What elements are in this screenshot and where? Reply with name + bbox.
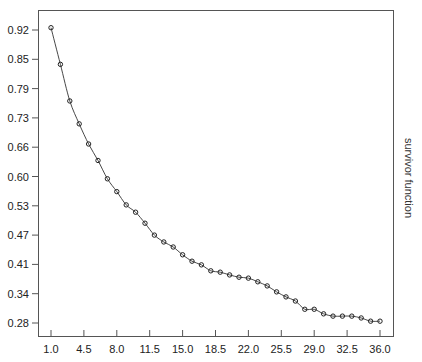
y-tick-label: 0.66	[8, 141, 29, 153]
x-tick-label: 8.0	[109, 343, 124, 355]
x-tick-label: 15.0	[172, 343, 193, 355]
x-axis: 1.04.58.011.515.018.522.025.529.032.536.…	[43, 330, 390, 355]
x-tick-label: 11.5	[139, 343, 160, 355]
y-tick-label: 0.60	[8, 171, 29, 183]
x-tick-label: 32.5	[336, 343, 357, 355]
y-tick-label: 0.28	[8, 317, 29, 329]
data-points	[49, 26, 382, 324]
y-axis: 0.920.850.790.730.660.600.530.470.410.34…	[8, 24, 38, 329]
x-tick-label: 36.0	[369, 343, 390, 355]
y-tick-label: 0.73	[8, 112, 29, 124]
x-tick-label: 25.5	[271, 343, 292, 355]
x-tick-label: 1.0	[43, 343, 58, 355]
y-tick-label: 0.34	[8, 288, 29, 300]
plot-frame	[39, 11, 394, 337]
x-tick-label: 18.5	[205, 343, 226, 355]
y-tick-label: 0.41	[8, 258, 29, 270]
y-tick-label: 0.79	[8, 83, 29, 95]
y-tick-label: 0.53	[8, 200, 29, 212]
x-tick-label: 22.0	[238, 343, 259, 355]
survivor-curve	[51, 28, 380, 322]
y-tick-label: 0.47	[8, 229, 29, 241]
survivor-function-chart: 0.920.850.790.730.660.600.530.470.410.34…	[0, 0, 422, 362]
y-tick-label: 0.85	[8, 53, 29, 65]
y-tick-label: 0.92	[8, 24, 29, 36]
y-axis-title: survivor function	[403, 138, 415, 218]
x-tick-label: 4.5	[76, 343, 91, 355]
x-tick-label: 29.0	[303, 343, 324, 355]
